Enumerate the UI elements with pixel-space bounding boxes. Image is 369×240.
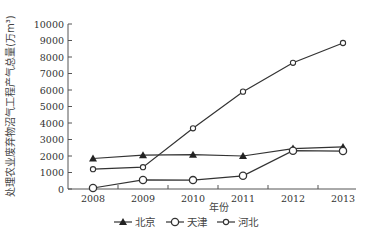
small-circle-marker — [223, 219, 228, 224]
small-circle-marker — [290, 60, 295, 65]
x-tick-label: 2011 — [231, 193, 255, 204]
x-tick-label: 2013 — [331, 193, 355, 204]
small-circle-marker — [340, 40, 345, 45]
circle-marker — [139, 176, 146, 183]
small-circle-marker — [90, 167, 95, 172]
x-tick-label: 2008 — [81, 193, 105, 204]
circle-marker — [89, 184, 96, 191]
circle-marker — [171, 218, 178, 225]
line-chart: 0100020003000400050006000700080009000100… — [0, 0, 369, 240]
small-circle-marker — [190, 126, 195, 131]
circle-marker — [239, 172, 246, 179]
legend-item-0: 北京 — [114, 216, 155, 228]
legend: 北京天津河北 — [114, 216, 259, 228]
y-tick-label: 0 — [58, 184, 64, 195]
y-tick-label: 8000 — [40, 52, 64, 63]
y-tick-label: 9000 — [40, 35, 64, 46]
x-tick-label: 2010 — [181, 193, 205, 204]
legend-item-1: 天津 — [166, 216, 208, 228]
y-tick-label: 2000 — [40, 151, 64, 162]
circle-marker — [189, 176, 196, 183]
legend-item-2: 河北 — [217, 216, 259, 228]
y-axis-label: 处理农业废弃物沼气工程产气总量(万m³) — [4, 15, 16, 197]
y-tick-label: 6000 — [40, 85, 64, 96]
y-tick-label: 5000 — [40, 101, 64, 112]
legend-label: 天津 — [187, 216, 208, 228]
y-tick-label: 3000 — [40, 134, 64, 145]
x-tick-label: 2012 — [281, 193, 305, 204]
y-tick-label: 10000 — [34, 19, 64, 30]
y-tick-label: 4000 — [40, 118, 64, 129]
legend-label: 河北 — [238, 216, 259, 228]
legend-label: 北京 — [135, 216, 155, 228]
series-2 — [90, 40, 345, 171]
y-axis: 0100020003000400050006000700080009000100… — [34, 19, 72, 195]
series-line — [93, 147, 343, 159]
circle-marker — [289, 147, 296, 154]
series-group — [89, 40, 347, 191]
series-1 — [89, 147, 346, 191]
x-tick-label: 2009 — [131, 193, 155, 204]
y-tick-label: 7000 — [40, 68, 64, 79]
y-tick-label: 1000 — [40, 167, 64, 178]
small-circle-marker — [140, 165, 145, 170]
small-circle-marker — [240, 89, 245, 94]
x-axis-label: 年份 — [209, 201, 229, 213]
series-0 — [89, 143, 347, 162]
circle-marker — [339, 147, 346, 154]
